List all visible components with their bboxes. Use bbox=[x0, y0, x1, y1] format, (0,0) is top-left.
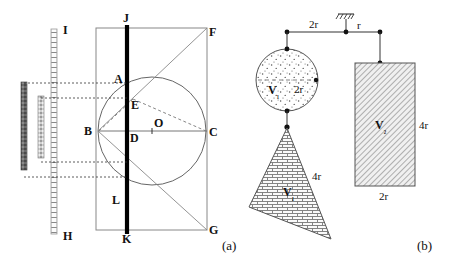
caption-b: (b) bbox=[417, 238, 432, 253]
sphere-diameter-node bbox=[314, 78, 318, 82]
diagonal-BG bbox=[98, 131, 207, 230]
caption-a: (a) bbox=[222, 238, 236, 253]
triangle-side-label: 4r bbox=[312, 170, 322, 182]
label-F: F bbox=[209, 25, 216, 39]
dashed-EC bbox=[133, 99, 206, 131]
panel-b: 2r r V₁ 2r V₁ 4r V₂ 4r 2r (b) bbox=[249, 14, 432, 253]
figure-root: I H J F A E B O C D L G K bbox=[0, 0, 459, 266]
beam-node-fulcrum bbox=[344, 30, 349, 35]
beam-left-arm-label: 2r bbox=[309, 18, 319, 30]
label-G: G bbox=[209, 223, 218, 237]
label-E: E bbox=[131, 98, 139, 112]
label-J: J bbox=[123, 11, 129, 25]
small-gray-bar bbox=[38, 96, 44, 158]
rectangle-width-label: 2r bbox=[379, 190, 389, 202]
beam-right-arm-label: r bbox=[357, 19, 361, 31]
label-D: D bbox=[130, 131, 139, 145]
label-B: B bbox=[84, 124, 92, 138]
label-K: K bbox=[122, 232, 132, 246]
triangle-body bbox=[249, 128, 331, 239]
rectangle-height-label: 4r bbox=[419, 119, 429, 131]
label-A: A bbox=[114, 72, 123, 86]
label-H: H bbox=[63, 229, 73, 243]
label-I: I bbox=[63, 23, 68, 37]
fulcrum-support-icon bbox=[336, 14, 354, 31]
dark-source-bar bbox=[21, 82, 27, 170]
sphere-diameter-label: 2r bbox=[294, 83, 304, 95]
label-O: O bbox=[154, 116, 163, 130]
panel-a: I H J F A E B O C D L G K bbox=[21, 11, 236, 253]
sphere-top-node bbox=[285, 47, 290, 52]
label-C: C bbox=[209, 125, 218, 139]
hatched-screen-strip bbox=[51, 29, 57, 234]
label-L: L bbox=[112, 193, 120, 207]
